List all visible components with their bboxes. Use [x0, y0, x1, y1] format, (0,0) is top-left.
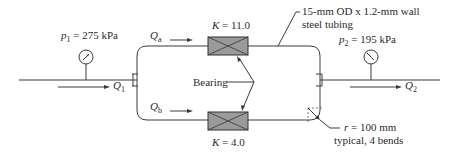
flow-arrow-q2 [350, 85, 402, 89]
bend-note-line2: typical, 4 bends [334, 134, 403, 146]
flow-label-qa: Qa [150, 29, 162, 44]
bend-note-line1: r = 100 mm [344, 121, 397, 133]
upper-branch-right [248, 46, 320, 80]
tubing-leader [278, 12, 300, 46]
lower-branch-right [248, 80, 320, 120]
tubing-note-line1: 15-mm OD x 1.2-mm wall [302, 5, 420, 17]
pressure-gauge-icon-outlet [364, 50, 378, 80]
lower-bearing-element [208, 112, 248, 130]
flow-label-qb: Qb [150, 100, 162, 115]
bearing-label: Bearing [193, 76, 228, 88]
upper-bearing-element [208, 37, 248, 55]
bend-radius-marker [308, 108, 340, 128]
upper-bearing-k-label: K = 11.0 [211, 19, 250, 31]
flow-label-q2: Q2 [405, 79, 417, 94]
inlet-pressure-label: p1 = 275 kPa [60, 29, 118, 44]
flow-arrow-qb [170, 109, 193, 113]
flow-arrow-qa [170, 38, 193, 42]
upper-branch-left [137, 46, 208, 80]
flow-label-q1: Q1 [113, 79, 125, 94]
pressure-gauge-icon-inlet [79, 50, 93, 80]
outlet-pressure-label: p2 = 195 kPa [338, 33, 396, 48]
bearing-leader-lines [227, 56, 254, 111]
flow-network-diagram: p1 = 275 kPa p2 = 195 kPa Q1 Q2 Qa Qb K … [0, 0, 456, 156]
flow-arrow-q1 [58, 85, 110, 89]
lower-bearing-k-label: K = 4.0 [211, 136, 245, 148]
tubing-note-line2: steel tubing [302, 18, 354, 30]
